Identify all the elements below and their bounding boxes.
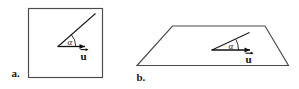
vector-angle-diagram: α u a. α xyxy=(0,0,299,89)
angle-label-b: α xyxy=(229,41,234,51)
angle-label-a: α xyxy=(68,37,73,47)
vector-arrowhead-b xyxy=(245,47,251,52)
vector-arrowhead-a xyxy=(80,44,86,49)
panel-caption-a: a. xyxy=(12,67,21,79)
trapezoid-plane-outline xyxy=(137,26,289,66)
panel-b: α u b. xyxy=(137,26,289,83)
angle-arc-b xyxy=(236,40,239,51)
vector-label-a: u xyxy=(81,48,89,61)
vector-label-text-b: u xyxy=(246,53,252,65)
angle-ray-a xyxy=(58,14,96,47)
figure-container: α u a. α xyxy=(0,0,299,89)
panel-caption-b: b. xyxy=(137,71,146,83)
vector-label-b: u xyxy=(246,52,254,65)
square-plane-outline xyxy=(29,9,103,78)
panel-a: α u a. xyxy=(12,9,103,79)
vector-label-text-a: u xyxy=(81,50,87,62)
